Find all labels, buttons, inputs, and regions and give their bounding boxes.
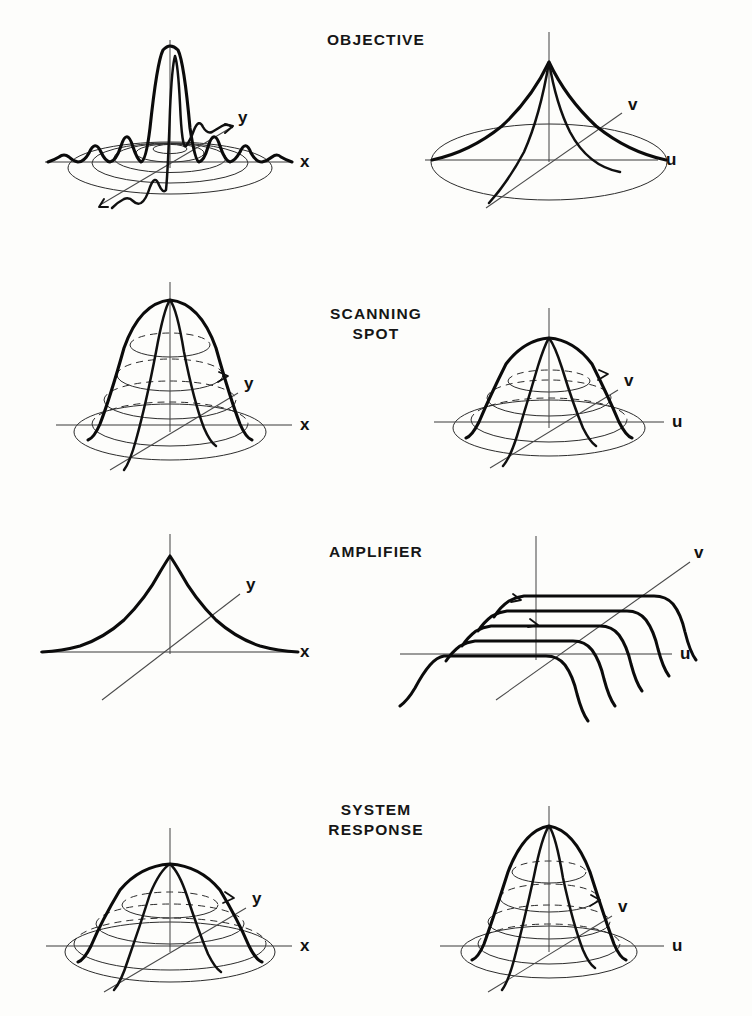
axis-label-v: v [618, 897, 628, 916]
axis-label-y: y [252, 889, 262, 908]
axis-label-u: u [672, 936, 682, 955]
row-label-system-response: SYSTEM RESPONSE [256, 800, 496, 841]
axis-label-x: x [300, 642, 310, 661]
axis-label-y: y [244, 374, 254, 393]
axis-label-y: y [238, 108, 248, 127]
axis-label-u: u [672, 412, 682, 431]
panel-amplifier-frequency: u v [400, 536, 704, 721]
axis-label-v: v [624, 371, 634, 390]
panel-system-response-spatial: x y [46, 828, 310, 992]
row-label-scanning-spot: SCANNING SPOT [256, 304, 496, 345]
figure-canvas: x y u v [0, 0, 752, 1016]
axis-label-v: v [694, 543, 704, 562]
panel-objective-spatial: x y [45, 40, 310, 208]
axis-label-v: v [628, 95, 638, 114]
axis-label-x: x [300, 415, 310, 434]
row-label-amplifier: AMPLIFIER [256, 542, 496, 562]
axis-label-u: u [666, 150, 676, 169]
axis-label-x: x [300, 936, 310, 955]
optical-transfer-function-figure: OBJECTIVE SCANNING SPOT AMPLIFIER SYSTEM… [0, 0, 752, 1016]
axis-label-y: y [246, 575, 256, 594]
axis-label-x: x [300, 152, 310, 171]
row-label-objective: OBJECTIVE [256, 30, 496, 50]
panel-objective-frequency: u v [425, 32, 676, 208]
